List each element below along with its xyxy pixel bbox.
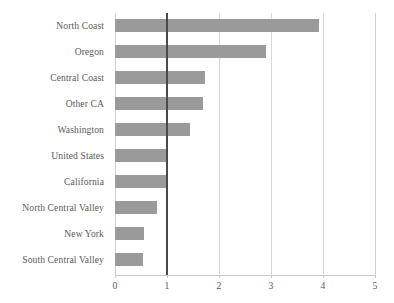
category-label: California bbox=[64, 169, 104, 195]
bar-chart: North CoastOregonCentral CoastOther CAWa… bbox=[0, 0, 394, 303]
x-tick-mark bbox=[219, 275, 220, 278]
x-tick-label: 5 bbox=[363, 280, 387, 291]
bar-row bbox=[115, 143, 375, 169]
bar bbox=[115, 253, 143, 266]
bar-row bbox=[115, 13, 375, 39]
y-axis-category-labels: North CoastOregonCentral CoastOther CAWa… bbox=[0, 13, 110, 275]
category-label: North Central Valley bbox=[22, 195, 104, 221]
plot-area bbox=[115, 13, 375, 275]
category-label: South Central Valley bbox=[22, 247, 104, 273]
bar bbox=[115, 201, 157, 214]
bar-row bbox=[115, 221, 375, 247]
reference-line bbox=[166, 13, 168, 275]
bar-row bbox=[115, 39, 375, 65]
bar-row bbox=[115, 247, 375, 273]
x-tick-mark bbox=[115, 275, 116, 278]
bar-row bbox=[115, 169, 375, 195]
category-label: United States bbox=[51, 143, 104, 169]
x-tick-mark bbox=[271, 275, 272, 278]
category-label: New York bbox=[64, 221, 104, 247]
gridline-5 bbox=[375, 13, 376, 275]
bar-row bbox=[115, 65, 375, 91]
bar-row bbox=[115, 91, 375, 117]
bar bbox=[115, 71, 205, 84]
bar bbox=[115, 149, 167, 162]
bar bbox=[115, 45, 266, 58]
x-tick-label: 2 bbox=[207, 280, 231, 291]
category-label: Washington bbox=[57, 117, 104, 143]
x-tick-mark bbox=[375, 275, 376, 278]
x-tick-label: 4 bbox=[311, 280, 335, 291]
x-tick-label: 1 bbox=[155, 280, 179, 291]
bar-row bbox=[115, 117, 375, 143]
category-label: Other CA bbox=[66, 91, 104, 117]
category-label: Central Coast bbox=[50, 65, 104, 91]
bar bbox=[115, 227, 144, 240]
x-tick-label: 0 bbox=[103, 280, 127, 291]
x-tick-mark bbox=[323, 275, 324, 278]
bar bbox=[115, 175, 167, 188]
x-tick-label: 3 bbox=[259, 280, 283, 291]
category-label: North Coast bbox=[56, 13, 104, 39]
category-label: Oregon bbox=[75, 39, 104, 65]
bar bbox=[115, 123, 190, 136]
x-tick-mark bbox=[167, 275, 168, 278]
bar-row bbox=[115, 195, 375, 221]
bar bbox=[115, 97, 203, 110]
x-axis-line bbox=[115, 275, 376, 276]
bar bbox=[115, 19, 319, 32]
